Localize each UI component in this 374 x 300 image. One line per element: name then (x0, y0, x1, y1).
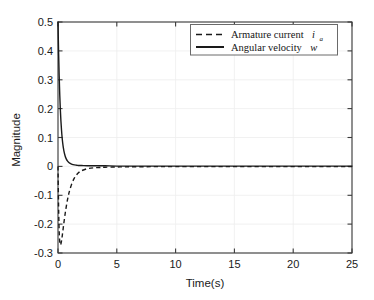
x-tick-label: 20 (287, 258, 299, 270)
y-tick-label: -0.1 (34, 189, 53, 201)
legend: Armature current i a Angular velocity w (191, 24, 338, 55)
x-tick-label: 10 (169, 258, 181, 270)
figure-container: 0.5 0.4 0.3 0.2 0.1 0 -0.1 -0.2 -0.3 0 5… (0, 0, 374, 300)
legend-subscript-armature-current: a (319, 35, 323, 43)
x-tick-label: 15 (228, 258, 240, 270)
x-tick-label: 25 (346, 258, 358, 270)
legend-symbol-armature-current: i (312, 29, 315, 40)
legend-label-angular-velocity: Angular velocity (231, 42, 303, 53)
x-axis-title: Time(s) (186, 277, 225, 289)
legend-symbol-angular-velocity: w (310, 42, 317, 53)
y-axis-title: Magnitude (10, 113, 22, 167)
y-tick-label: 0.4 (38, 45, 53, 57)
y-tick-labels: 0.5 0.4 0.3 0.2 0.1 0 -0.1 -0.2 -0.3 (34, 16, 53, 259)
y-tick-label: -0.3 (34, 247, 53, 259)
y-tick-label: 0 (47, 160, 53, 172)
y-tick-label: 0.5 (38, 16, 53, 28)
line-chart: 0.5 0.4 0.3 0.2 0.1 0 -0.1 -0.2 -0.3 0 5… (0, 0, 374, 300)
y-tick-label: 0.2 (38, 103, 53, 115)
y-tick-label: 0.1 (38, 132, 53, 144)
x-tick-label: 0 (55, 258, 61, 270)
x-tick-label: 5 (114, 258, 120, 270)
y-tick-label: -0.2 (34, 218, 53, 230)
y-tick-label: 0.3 (38, 74, 53, 86)
legend-label-armature-current: Armature current (231, 29, 304, 40)
